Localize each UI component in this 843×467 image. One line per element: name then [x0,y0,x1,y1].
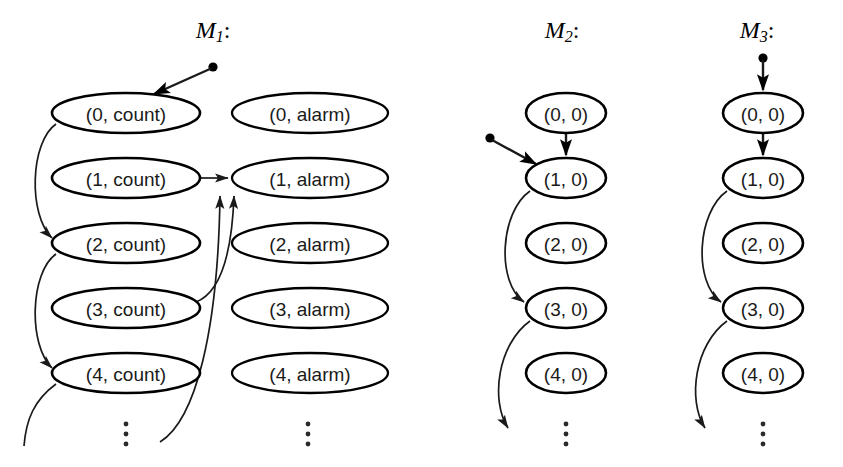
machine-m2-title: M2: [544,17,580,45]
node-m3-1[interactable]: (1, 0) [723,158,803,198]
node-1-count[interactable]: (1, count) [52,158,200,198]
node-label: (0, count) [86,104,166,125]
node-label: (1, 0) [741,169,785,190]
machine-m2: M2: (0, 0) (1, 0) (2, 0) [485,17,606,446]
node-m2-3[interactable]: (3, 0) [526,288,606,328]
m1-count-column: (0, count) (1, count) (2, count) (3, cou… [52,93,200,446]
node-label: (4, alarm) [269,364,350,385]
node-2-alarm[interactable]: (2, alarm) [232,223,388,263]
alarm-column-vertical-ellipsis-icon [306,422,311,447]
machine-m1-title: M1: [195,17,231,45]
node-4-alarm[interactable]: (4, alarm) [232,353,388,393]
node-0-count[interactable]: (0, count) [52,93,200,133]
node-label: (4, 0) [544,364,588,385]
node-label: (3, alarm) [269,299,350,320]
diagram-canvas: M1: (0, count) (1, c [0,0,843,467]
node-label: (2, 0) [544,234,588,255]
machine-m1: M1: (0, count) (1, c [24,17,388,446]
node-2-count[interactable]: (2, count) [52,223,200,263]
node-label: (3, count) [86,299,166,320]
node-label: (0, 0) [544,104,588,125]
m1-alarm-column: (0, alarm) (1, alarm) (2, alarm) (3, ala… [232,93,388,446]
node-label: (2, count) [86,234,166,255]
node-label: (3, 0) [544,299,588,320]
state-machine-figure: M1: (0, count) (1, c [0,0,843,467]
m1-start-arrow [154,69,211,95]
node-label: (1, count) [86,169,166,190]
node-m2-0[interactable]: (0, 0) [526,93,606,133]
node-4-count[interactable]: (4, count) [52,353,200,393]
m3-vertical-ellipsis-icon [761,422,766,447]
node-m2-2[interactable]: (2, 0) [526,223,606,263]
node-m3-4[interactable]: (4, 0) [723,353,803,393]
node-3-alarm[interactable]: (3, alarm) [232,288,388,328]
node-m2-4[interactable]: (4, 0) [526,353,606,393]
count-column-vertical-ellipsis-icon [124,422,129,447]
machine-m3-title: M3: [739,17,775,45]
node-label: (2, alarm) [269,234,350,255]
node-m3-2[interactable]: (2, 0) [723,223,803,263]
node-3-count[interactable]: (3, count) [52,288,200,328]
node-m3-0[interactable]: (0, 0) [723,93,803,133]
node-label: (3, 0) [741,299,785,320]
node-0-alarm[interactable]: (0, alarm) [232,93,388,133]
node-m3-3[interactable]: (3, 0) [723,288,803,328]
node-label: (1, alarm) [269,169,350,190]
m2-start-arrow [492,140,536,164]
node-1-alarm[interactable]: (1, alarm) [232,158,388,198]
node-label: (4, 0) [741,364,785,385]
node-label: (0, alarm) [269,104,350,125]
m1-edge-count4-downward [24,384,56,446]
node-m2-1[interactable]: (1, 0) [526,158,606,198]
machine-m3: M3: (0, 0) (1, 0) (2, 0) [696,17,803,446]
node-label: (0, 0) [741,104,785,125]
node-label: (1, 0) [544,169,588,190]
m2-vertical-ellipsis-icon [564,422,569,447]
node-label: (4, count) [86,364,166,385]
node-label: (2, 0) [741,234,785,255]
